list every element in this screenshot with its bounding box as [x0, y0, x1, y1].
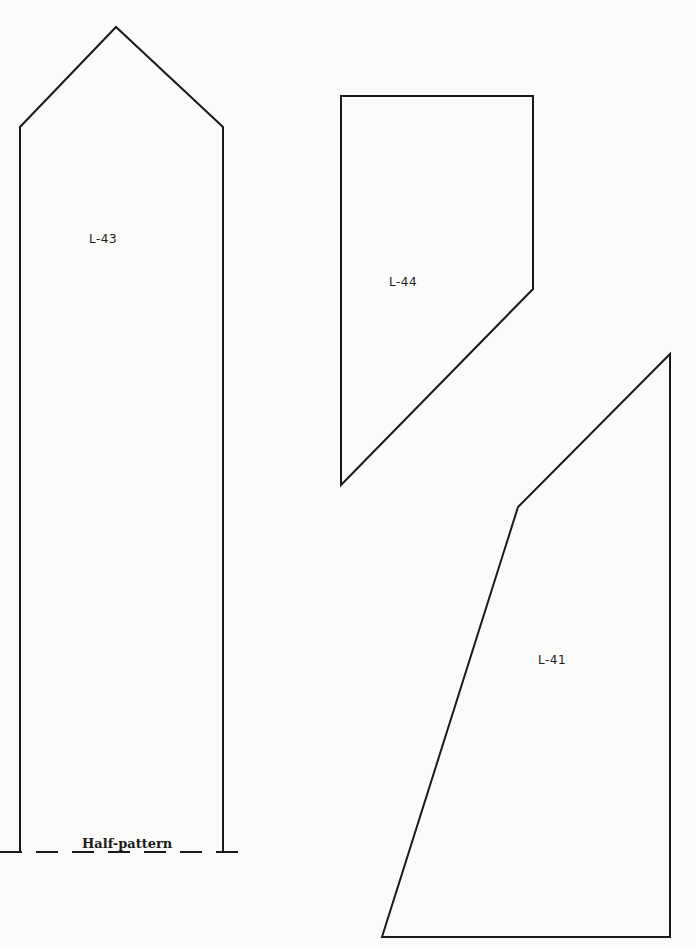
- pattern-canvas: [0, 0, 695, 950]
- pattern-piece-label-l43: L-43: [89, 232, 117, 246]
- pattern-piece-l41-outline: [382, 354, 670, 937]
- pattern-piece-label-l44: L-44: [389, 275, 417, 289]
- pattern-piece-l43-outline: [20, 27, 223, 852]
- pattern-piece-label-l41: L-41: [538, 653, 566, 667]
- half-pattern-note: Half-pattern: [82, 836, 172, 851]
- pattern-piece-l44-outline: [341, 96, 533, 485]
